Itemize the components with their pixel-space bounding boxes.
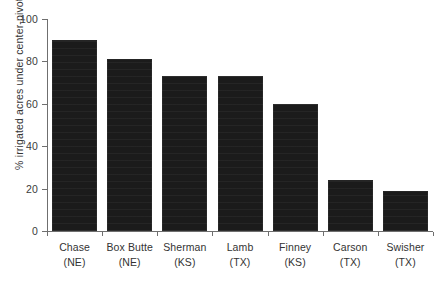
category-name: Swisher (386, 241, 424, 253)
category-name: Finney (279, 241, 311, 253)
category-state: (TX) (212, 255, 267, 270)
category-state: (TX) (378, 255, 433, 270)
bar (107, 59, 152, 231)
x-axis-category-label: Box Butte(NE) (102, 240, 157, 270)
y-axis-tick-label: 0 (0, 226, 38, 237)
category-state: (TX) (323, 255, 378, 270)
y-axis-tick-label: 100 (0, 14, 38, 25)
bar (162, 76, 207, 231)
x-axis-tick (433, 232, 434, 236)
x-axis-category-label: Chase(NE) (47, 240, 102, 270)
plot-area (47, 19, 433, 231)
category-name: Box Butte (106, 241, 152, 253)
x-axis-category-label: Lamb(TX) (212, 240, 267, 270)
x-axis-category-label: Swisher(TX) (378, 240, 433, 270)
x-axis-tick (157, 232, 158, 236)
y-axis-tick-label: 60 (0, 99, 38, 110)
x-axis-tick (323, 232, 324, 236)
x-axis-tick (212, 232, 213, 236)
bar (383, 191, 428, 231)
x-axis-tick (47, 232, 48, 236)
x-axis-line (47, 231, 433, 232)
bar (328, 180, 373, 231)
x-axis-category-label: Carson(TX) (323, 240, 378, 270)
x-axis-category-label: Sherman(KS) (157, 240, 212, 270)
bar (218, 76, 263, 231)
y-axis-tick-label: 40 (0, 141, 38, 152)
category-state: (KS) (268, 255, 323, 270)
category-name: Carson (333, 241, 367, 253)
category-name: Chase (59, 241, 90, 253)
x-axis-category-label: Finney(KS) (268, 240, 323, 270)
category-state: (KS) (157, 255, 212, 270)
category-name: Sherman (163, 241, 206, 253)
category-name: Lamb (227, 241, 254, 253)
y-axis-tick-label: 20 (0, 184, 38, 195)
x-axis-tick (378, 232, 379, 236)
x-axis-tick (102, 232, 103, 236)
category-state: (NE) (47, 255, 102, 270)
x-axis-tick (268, 232, 269, 236)
bar-chart: % irrigated acres under center-pivot 020… (0, 0, 441, 288)
bar (52, 40, 97, 231)
y-axis-tick-label: 80 (0, 56, 38, 67)
bar (273, 104, 318, 231)
category-state: (NE) (102, 255, 157, 270)
